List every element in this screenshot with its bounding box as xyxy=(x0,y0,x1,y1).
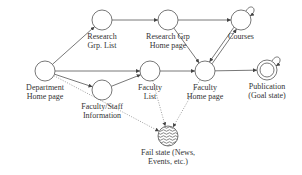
node-label: List xyxy=(144,92,157,101)
node-label: Publication xyxy=(249,82,285,91)
node-label: Home page xyxy=(187,92,224,101)
node-courses: Courses xyxy=(228,7,254,41)
node-label: Faculty/Staff xyxy=(81,102,123,111)
node-fl: FacultyList xyxy=(138,61,162,101)
node-label: (Goal state) xyxy=(248,91,286,100)
node-dept: DepartmentHome page xyxy=(26,61,65,101)
node-label: Home page xyxy=(27,92,64,101)
node-fail: Fail state (News,Events, etc.) xyxy=(141,126,195,166)
state-diagram: DepartmentHome pageResearchGrp. ListRese… xyxy=(0,0,302,175)
node-pub: Publication(Goal state) xyxy=(248,57,286,100)
node-rgl: ResearchGrp. List xyxy=(87,10,117,50)
node-fh: FacultyHome page xyxy=(187,61,224,101)
node-label: Faculty xyxy=(193,83,217,92)
node-label: Research xyxy=(87,32,116,41)
node-label: Fail state (News, xyxy=(141,148,195,157)
node-label: Department xyxy=(26,83,65,92)
node-rgh: Research GrpHome page xyxy=(146,10,190,50)
node-label: Grp. List xyxy=(88,41,118,50)
node-label: Home page xyxy=(150,41,187,50)
edge-fh-to-pub xyxy=(215,70,257,71)
edge-fsi-to-fl xyxy=(111,75,140,87)
node-label: Courses xyxy=(228,32,254,41)
node-label: Events, etc.) xyxy=(148,157,188,166)
node-label: Information xyxy=(83,111,121,120)
node-fsi: Faculty/StaffInformation xyxy=(81,80,123,120)
node-label: Research Grp xyxy=(146,32,190,41)
node-label: Faculty xyxy=(138,83,162,92)
